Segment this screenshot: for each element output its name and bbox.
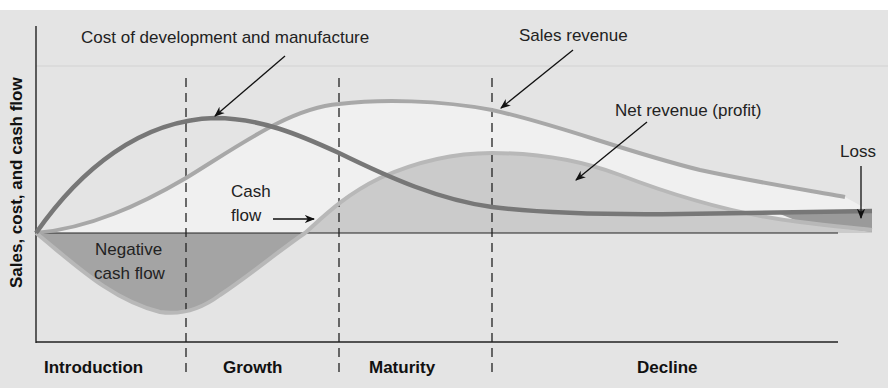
stage-growth: Growth [223,358,283,377]
cash-flow-label-line2: flow [231,206,262,225]
negative-cash-flow-label-line1: Negative [95,240,162,259]
stage-introduction: Introduction [44,358,143,377]
sales-arrow [501,50,573,108]
y-axis-label: Sales, cost, and cash flow [7,77,26,288]
sales-label: Sales revenue [519,26,628,45]
product-life-cycle-chart: Cost of development and manufacture Sale… [0,0,888,391]
loss-label: Loss [840,142,876,161]
cost-label: Cost of development and manufacture [81,28,369,47]
cash-flow-label-line1: Cash [231,182,271,201]
stage-maturity: Maturity [369,358,436,377]
negative-cash-flow-label-line2: cash flow [94,264,166,283]
net-revenue-label: Net revenue (profit) [615,101,761,120]
negative-cash-flow-fill [36,233,305,313]
cost-arrow [215,56,285,116]
stage-decline: Decline [637,358,697,377]
